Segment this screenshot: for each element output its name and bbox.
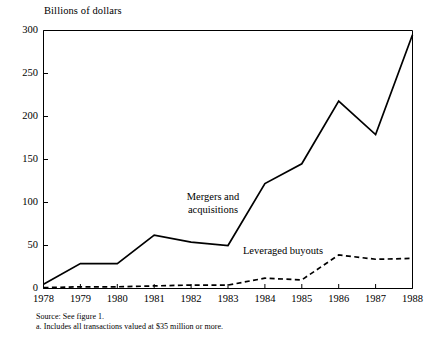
x-tick-label: 1982 (171, 293, 211, 304)
y-tick-label: 250 (8, 67, 38, 78)
y-tick-label: 0 (8, 282, 38, 293)
x-tick-label: 1978 (24, 293, 64, 304)
series-line-leveraged-buyouts (44, 255, 413, 288)
x-tick-label: 1985 (282, 293, 322, 304)
series-annotation-line2: acquisitions (188, 204, 238, 215)
series-annotation-line1: Leveraged buyouts (243, 245, 323, 256)
series-annotation-line1: Mergers and (187, 191, 240, 202)
x-tick-label: 1987 (356, 293, 396, 304)
x-tick-label: 1983 (208, 293, 248, 304)
plot-area (0, 0, 444, 339)
x-tick-label: 1988 (393, 293, 433, 304)
y-tick-label: 50 (8, 239, 38, 250)
x-tick-label: 1984 (245, 293, 285, 304)
x-tick-label: 1979 (60, 293, 100, 304)
chart-figure: Billions of dollars 050100150200250300 1… (0, 0, 444, 339)
y-tick-label: 300 (8, 24, 38, 35)
x-tick-label: 1986 (319, 293, 359, 304)
footnote-note-a: a. Includes all transactions valued at $… (36, 322, 223, 331)
x-tick-label: 1981 (134, 293, 174, 304)
y-tick-label: 200 (8, 110, 38, 121)
y-tick-marks (44, 31, 49, 289)
y-tick-label: 100 (8, 196, 38, 207)
x-tick-label: 1980 (97, 293, 137, 304)
footnote-source: Source: See figure 1. (36, 312, 104, 321)
series-annotation-leveraged-buyouts: Leveraged buyouts (228, 245, 338, 258)
y-tick-label: 150 (8, 153, 38, 164)
series-annotation-mergers-and-acquisitions: Mergers and acquisitions (158, 191, 268, 216)
